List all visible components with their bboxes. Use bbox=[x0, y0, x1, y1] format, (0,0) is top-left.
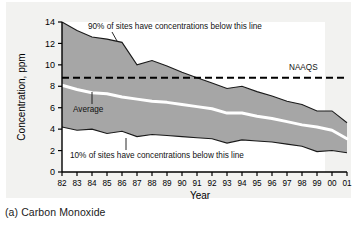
x-axis-title: Year bbox=[190, 190, 211, 201]
x-tick-label: 92 bbox=[207, 179, 217, 188]
x-tick-label: 00 bbox=[327, 179, 337, 188]
figure-caption: (a) Carbon Monoxide bbox=[5, 206, 106, 218]
y-tick-label: 8 bbox=[50, 81, 55, 91]
x-axis-ticks: 8283848586878889909192939495969798990001 bbox=[57, 172, 352, 188]
y-tick-label: 14 bbox=[45, 17, 55, 27]
x-tick-label: 99 bbox=[312, 179, 322, 188]
x-tick-label: 87 bbox=[132, 179, 142, 188]
x-tick-label: 89 bbox=[162, 179, 172, 188]
x-tick-label: 96 bbox=[267, 179, 277, 188]
y-axis-ticks: 02468101214 bbox=[45, 17, 62, 177]
y-axis-title: Concentration, ppm bbox=[16, 53, 27, 140]
x-tick-label: 86 bbox=[117, 179, 127, 188]
x-tick-label: 83 bbox=[72, 179, 82, 188]
upper-band-annotation: 90% of sites have concentrations below t… bbox=[88, 22, 262, 31]
x-tick-label: 84 bbox=[87, 179, 97, 188]
average-annotation: Average bbox=[73, 105, 104, 114]
x-tick-label: 90 bbox=[177, 179, 187, 188]
lower-band-annotation: 10% of sites have concentrations below t… bbox=[70, 151, 244, 160]
x-tick-label: 93 bbox=[222, 179, 232, 188]
y-tick-label: 10 bbox=[45, 60, 55, 70]
concentration-trend-chart: NAAQS 02468101214 8283848586878889909192… bbox=[0, 0, 357, 230]
x-tick-label: 01 bbox=[342, 179, 352, 188]
x-tick-label: 95 bbox=[252, 179, 262, 188]
y-tick-label: 0 bbox=[50, 167, 55, 177]
x-tick-label: 85 bbox=[102, 179, 112, 188]
x-tick-label: 82 bbox=[57, 179, 67, 188]
x-tick-label: 94 bbox=[237, 179, 247, 188]
x-tick-label: 88 bbox=[147, 179, 157, 188]
y-tick-label: 4 bbox=[50, 124, 55, 134]
x-tick-label: 97 bbox=[282, 179, 292, 188]
figure-carbon-monoxide: NAAQS 02468101214 8283848586878889909192… bbox=[0, 0, 357, 230]
naaqs-label: NAAQS bbox=[289, 63, 318, 72]
y-tick-label: 2 bbox=[50, 146, 55, 156]
x-tick-label: 98 bbox=[297, 179, 307, 188]
y-tick-label: 12 bbox=[45, 39, 55, 49]
x-tick-label: 91 bbox=[192, 179, 202, 188]
y-tick-label: 6 bbox=[50, 103, 55, 113]
